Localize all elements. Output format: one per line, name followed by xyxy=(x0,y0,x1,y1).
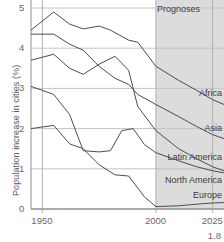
series-label-north-america: North America xyxy=(165,175,222,185)
y-tick-label: 5 xyxy=(19,2,24,13)
y-tick-label: 2 xyxy=(19,123,24,134)
y-axis-title: Population increase in cities (%) xyxy=(0,0,15,216)
series-label-africa: Africa xyxy=(199,88,222,98)
y-tick-label: 0 xyxy=(19,203,24,214)
series-label-europe: Europe xyxy=(193,190,222,200)
series-label-asia: Asia xyxy=(204,123,222,133)
line-chart-plot xyxy=(0,0,224,242)
y-tick-label: 3 xyxy=(19,82,24,93)
x-tick-label: 1950 xyxy=(31,215,52,226)
y-tick-label: 4 xyxy=(19,42,24,53)
x-tick-label: 2025 xyxy=(202,215,223,226)
series-label-latin-america: Latin America xyxy=(167,152,222,162)
y-tick-label: 1 xyxy=(19,163,24,174)
prognoses-annotation-label: Prognoses xyxy=(157,4,200,14)
x-tick-label: 2000 xyxy=(145,215,166,226)
figure-number: 1.8 xyxy=(208,230,221,241)
chart-container: Population increase in cities (%) 012345… xyxy=(0,0,224,242)
